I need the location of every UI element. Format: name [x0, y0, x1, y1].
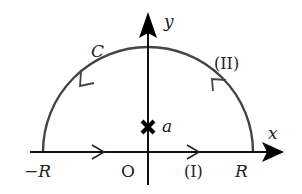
- pole-label: a: [162, 116, 172, 136]
- x-axis-label: x: [268, 123, 278, 143]
- segment-1-label: (I): [184, 162, 203, 181]
- segment-2-label: (II): [214, 54, 239, 73]
- contour-diagram: C y (II) a x −R O (I) R: [0, 0, 302, 194]
- left-end-label: −R: [24, 161, 51, 181]
- y-axis-label: y: [163, 11, 174, 31]
- right-end-label: R: [234, 161, 248, 181]
- origin-label: O: [121, 161, 135, 181]
- contour-label: C: [91, 41, 104, 61]
- arc-direction-arrow-left-icon: [80, 72, 94, 86]
